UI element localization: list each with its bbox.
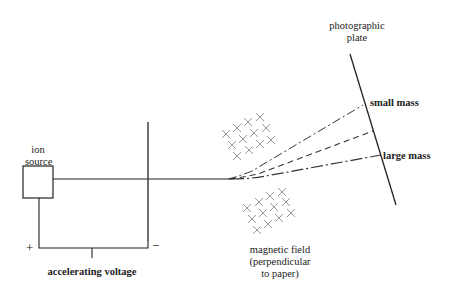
ion-source-label-line2: source [25,156,51,168]
ion-source-label-line1: ion [25,144,51,156]
circuit-wire [39,198,148,248]
beam-small-mass [228,105,363,179]
large-mass-label: large mass [383,150,431,162]
mass-spectrometer-diagram [0,0,452,295]
magnetic-field-crosses-lower [243,188,295,234]
beam-intermediate [230,131,373,179]
photographic-plate [350,54,396,205]
ion-source-box [23,166,53,198]
small-mass-label: small mass [370,97,419,109]
photographic-plate-label: photographic plate [327,20,387,44]
magnetic-field-crosses-upper [222,113,275,160]
magnetic-field-label-line2: (perpendicular [245,256,315,268]
magnetic-field-label: magnetic field (perpendicular to paper) [245,244,315,280]
ion-source-label: ion source [25,144,51,168]
plate-label-line2: plate [327,32,387,44]
plus-terminal: + [26,242,33,254]
beam-large-mass [232,155,381,179]
magnetic-field-label-line1: magnetic field [245,244,315,256]
magnetic-field-label-line3: to paper) [245,268,315,280]
plate-label-line1: photographic [327,20,387,32]
accelerating-voltage-label: accelerating voltage [46,266,138,278]
minus-terminal: − [152,240,159,252]
